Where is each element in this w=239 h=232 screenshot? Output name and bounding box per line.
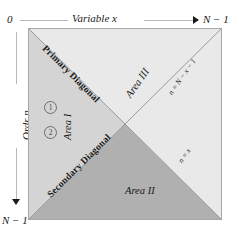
arrow-down-icon bbox=[12, 199, 20, 205]
x-axis-rule-right bbox=[144, 20, 194, 21]
x-axis-start-label: 0 bbox=[7, 14, 13, 25]
arrow-right-icon bbox=[193, 16, 199, 24]
y-axis-rule-top bbox=[16, 32, 17, 84]
diagram-canvas: 0 Variable x N − 1 Ordr n N − 1 Primary … bbox=[0, 0, 239, 232]
x-axis-rule-left bbox=[20, 20, 68, 21]
y-axis-rule-bottom bbox=[16, 148, 17, 199]
marker-2: 2 bbox=[44, 126, 57, 139]
y-axis-end-label: N − 1 bbox=[2, 215, 28, 226]
x-axis-name: Variable x bbox=[72, 13, 117, 24]
area-2-label: Area II bbox=[125, 186, 155, 197]
marker-1: 1 bbox=[44, 101, 57, 114]
area-1-label: Area I bbox=[63, 114, 74, 140]
x-axis-end-label: N − 1 bbox=[203, 14, 229, 25]
